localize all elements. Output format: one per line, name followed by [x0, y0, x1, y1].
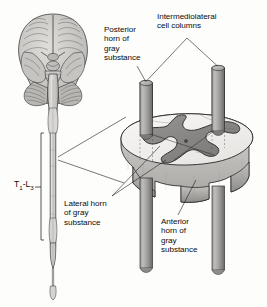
- leader-posterior-horn: [137, 66, 146, 82]
- intermediolateral-column-posterior-right: [212, 65, 225, 135]
- figure-canvas: Posterior horn of gray substance Interme…: [0, 0, 267, 307]
- intermediolateral-column-anterior-left: [140, 178, 153, 273]
- segment-sub-3: 3: [30, 184, 33, 191]
- magnification-leaders: [58, 117, 126, 183]
- label-segment-level: T1-L3: [14, 180, 34, 189]
- leader-intermediolateral: [147, 38, 218, 81]
- intermediolateral-column-posterior-left: [140, 80, 153, 139]
- label-lateral-horn: Lateral horn of gray substance: [64, 199, 107, 227]
- spinal-cord: [48, 74, 59, 300]
- label-intermediolateral-cell-columns: Intermediolateral cell columns: [157, 12, 216, 31]
- intermediolateral-column-anterior-right: [212, 186, 225, 275]
- segment-level-bracket: [35, 133, 44, 240]
- label-anterior-horn: Anterior horn of gray substance: [161, 217, 197, 255]
- label-posterior-horn: Posterior horn of gray substance: [104, 25, 140, 63]
